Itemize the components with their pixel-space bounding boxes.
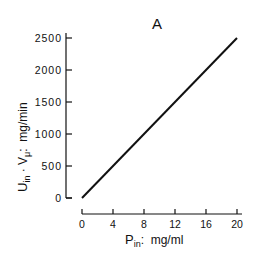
x-axis-label: Pin: mg/ml <box>125 232 183 249</box>
y-tick-label: 500 <box>41 160 62 172</box>
chart-container: A 05001000150020002500 048121620 Pin: mg… <box>0 0 258 257</box>
x-ticks: 048121620 <box>79 209 243 230</box>
x-tick-label: 16 <box>200 218 212 230</box>
x-tick-label: 20 <box>231 218 243 230</box>
y-tick-label: 2000 <box>35 64 62 76</box>
x-tick-label: 4 <box>110 218 116 230</box>
y-tick-label: 1000 <box>35 128 62 140</box>
data-line <box>82 38 237 198</box>
y-tick-label: 0 <box>55 192 62 204</box>
y-axis-label: Uin · Vμ: mg/min <box>15 102 32 192</box>
x-tick-label: 8 <box>141 218 147 230</box>
x-tick-label: 0 <box>79 218 85 230</box>
y-tick-label: 2500 <box>35 32 62 44</box>
x-tick-label: 12 <box>169 218 181 230</box>
y-tick-label: 1500 <box>35 96 62 108</box>
chart-title: A <box>152 15 162 32</box>
